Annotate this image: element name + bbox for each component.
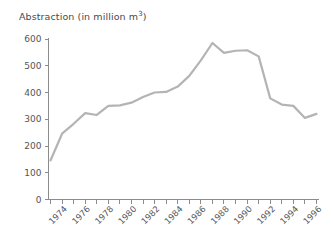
x-tick-label: 1978 [93, 204, 115, 226]
y-tick-label: 100 [24, 168, 41, 178]
x-tick-label: 1982 [139, 204, 161, 226]
chart-container: Abstraction (in million m3) 600500400300… [0, 0, 333, 240]
x-tick-label: 1986 [185, 204, 207, 226]
x-tick-label: 1994 [278, 204, 300, 226]
x-axis: 1974197619781980198219841986198819901992… [47, 200, 324, 227]
x-tick-label: 1988 [209, 204, 231, 226]
y-tick-label: 400 [24, 88, 41, 98]
x-tick-label: 1990 [232, 204, 254, 226]
y-tick-label: 200 [24, 141, 41, 151]
x-tick-label: 1996 [301, 204, 323, 226]
y-tick-label: 600 [24, 34, 41, 44]
y-tick-label: 0 [36, 195, 42, 205]
data-series-group [51, 43, 317, 160]
line-chart-plot: 6005004003002001000 19741976197819801982… [0, 0, 333, 240]
x-tick-label: 1980 [116, 204, 138, 226]
y-tick-label: 500 [24, 61, 41, 71]
y-axis: 6005004003002001000 [24, 34, 48, 205]
x-tick-label: 1984 [162, 204, 184, 226]
x-tick-label: 1974 [47, 204, 69, 226]
x-tick-label: 1992 [255, 204, 277, 226]
x-tick-label: 1976 [70, 204, 92, 226]
data-series-line [51, 43, 317, 160]
y-tick-label: 300 [24, 114, 41, 124]
